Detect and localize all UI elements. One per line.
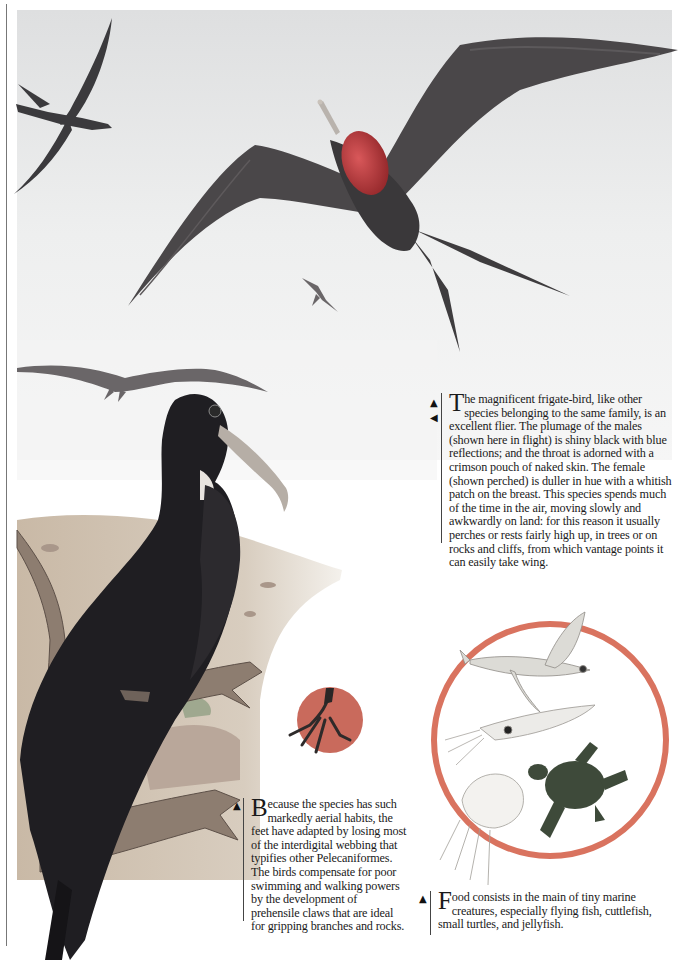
left-arrow-icon: ◀	[430, 413, 438, 423]
caption-text: he magnificent frigate-bird, like other …	[449, 392, 671, 569]
up-arrow-icon: ▲	[233, 801, 241, 811]
caption-frigate-intro: The magnificent frigate-bird, like other…	[449, 393, 675, 570]
up-arrow-icon: ▲	[430, 398, 438, 408]
food-inset	[434, 612, 666, 885]
dropcap: T	[449, 394, 464, 412]
dropcap: F	[438, 892, 452, 910]
caption-text: ood consists in the main of tiny marine …	[438, 890, 652, 931]
dropcap: B	[251, 799, 268, 817]
caption-rule	[430, 891, 431, 935]
caption-rule	[441, 393, 442, 543]
caption-rule	[243, 798, 244, 921]
caption-food: Food consists in the main of tiny marine…	[438, 891, 678, 932]
up-arrow-icon: ▲	[419, 894, 427, 904]
caption-feet: Because the species has such markedly ae…	[251, 798, 407, 934]
caption-text: ecause the species has such markedly aer…	[251, 797, 406, 933]
foot-inset	[290, 687, 363, 753]
